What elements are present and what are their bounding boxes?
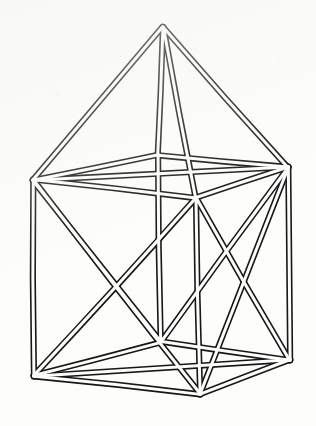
strut-core-post-right — [288, 167, 290, 360]
strut-core-post-left — [33, 180, 34, 377]
figure-canvas — [0, 0, 316, 426]
wireframe-polyhedron-drawing — [0, 0, 316, 426]
